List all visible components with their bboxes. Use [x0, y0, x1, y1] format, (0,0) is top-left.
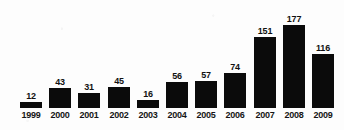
bar-group: 1772008: [283, 0, 305, 130]
bar-group: 452002: [108, 0, 130, 130]
bar-value-label: 151: [247, 26, 283, 36]
bar: [108, 87, 130, 108]
bar-group: 742006: [224, 0, 246, 130]
bar-value-label: 12: [13, 91, 49, 101]
bar: [224, 73, 246, 108]
bar-value-label: 177: [276, 14, 312, 24]
bar-chart: 1219994320003120014520021620035620045720…: [0, 0, 344, 130]
bar-group: 162003: [137, 0, 159, 130]
bar: [49, 88, 71, 108]
bar: [312, 54, 334, 108]
bar-value-label: 116: [305, 43, 341, 53]
bar: [20, 102, 42, 108]
bar-value-label: 16: [130, 89, 166, 99]
bar: [78, 93, 100, 108]
bar-value-label: 45: [101, 76, 137, 86]
bar-group: 1512007: [254, 0, 276, 130]
bar: [166, 82, 188, 108]
bar-group: 121999: [20, 0, 42, 130]
bar-group: 312001: [78, 0, 100, 130]
bar: [137, 100, 159, 108]
plot-area: 1219994320003120014520021620035620045720…: [0, 0, 344, 130]
x-axis-tick-label: 2009: [305, 110, 341, 120]
bar-group: 572005: [195, 0, 217, 130]
bar: [195, 81, 217, 108]
bar: [254, 37, 276, 108]
bar-value-label: 74: [217, 62, 253, 72]
bar-group: 1162009: [312, 0, 334, 130]
bar: [283, 25, 305, 108]
bar-group: 562004: [166, 0, 188, 130]
bar-group: 432000: [49, 0, 71, 130]
